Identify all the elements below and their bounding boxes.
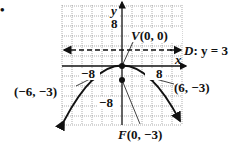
vertex-label: V(0, 0) [131,28,168,43]
point-right-label: (6, −3) [174,80,210,95]
bullet: • [0,2,5,17]
x-tick-neg8: −8 [81,66,95,81]
x-tick-8: 8 [156,66,163,81]
point-left-label: (−6, −3) [14,84,57,99]
directrix-label: D: y = 3 [183,43,228,58]
focus-label: F(0, −3) [117,127,162,142]
parabola-diagram: • y 8 x −8 8 −8 V(0, 0) D: y = 3 F(0, −3… [0,0,244,144]
x-axis-label: x [174,52,182,67]
y-tick-8: 8 [111,16,118,31]
focus-leader [122,80,140,124]
vertex-leader [122,42,133,66]
y-tick-neg8: −8 [99,95,113,110]
